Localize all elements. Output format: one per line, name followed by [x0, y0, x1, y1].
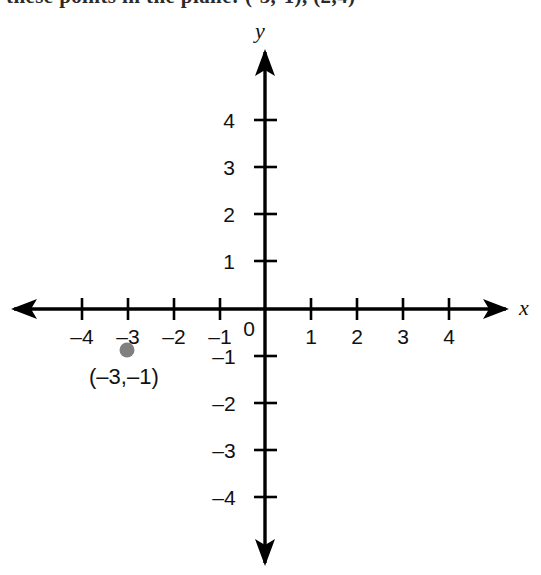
x-axis-label: x [519, 297, 529, 319]
data-point-label: (–3,–1) [89, 366, 159, 388]
x-tick-label-2: 2 [344, 326, 370, 347]
y-tick-label-3: 3 [216, 157, 242, 178]
y-tick-label-1: 1 [216, 251, 242, 272]
y-axis-label: y [255, 20, 265, 42]
x-tick-label-1: 1 [298, 326, 324, 347]
coordinate-plane-svg [0, 0, 541, 575]
x-tick-label-neg1: –1 [202, 326, 238, 347]
y-tick-label-4: 4 [216, 110, 242, 131]
x-tick-label-neg4: –4 [64, 326, 100, 347]
coordinate-plane: 4 3 2 1 –1 –2 –3 –4 0 –4 –3 –2 –1 1 2 3 … [0, 0, 541, 575]
y-tick-label-neg3: –3 [206, 440, 242, 461]
x-tick-label-neg3: –3 [110, 326, 146, 347]
x-tick-label-neg2: –2 [156, 326, 192, 347]
y-tick-label-neg4: –4 [206, 487, 242, 508]
y-tick-label-2: 2 [216, 204, 242, 225]
y-tick-label-neg2: –2 [206, 393, 242, 414]
x-tick-label-4: 4 [436, 326, 462, 347]
y-tick-label-neg1: –1 [206, 346, 242, 367]
origin-label: 0 [238, 318, 260, 339]
x-tick-label-3: 3 [390, 326, 416, 347]
